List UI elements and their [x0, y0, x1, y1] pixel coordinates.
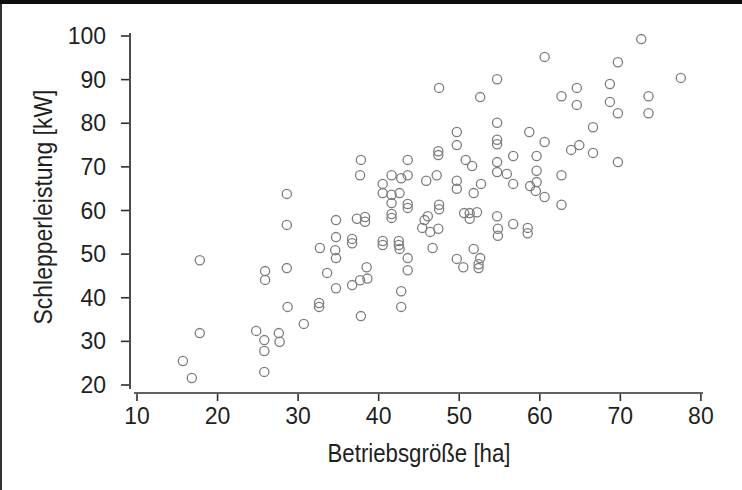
data-point — [540, 137, 549, 146]
data-point — [397, 302, 406, 311]
x-tick-label: 20 — [205, 403, 231, 429]
y-tick-label: 40 — [80, 285, 106, 311]
x-tick-label: 80 — [688, 403, 714, 429]
scan-edge-top-artifact — [0, 0, 742, 4]
data-point — [403, 155, 412, 164]
data-point — [356, 155, 365, 164]
y-tick-label: 60 — [80, 198, 106, 224]
axes: 10203040506070802030405060708090100 — [68, 23, 714, 429]
x-tick-label: 40 — [366, 403, 392, 429]
data-point — [315, 243, 324, 252]
data-point — [469, 189, 478, 198]
data-point — [532, 151, 541, 160]
y-tick-label: 90 — [80, 67, 106, 93]
data-point — [509, 179, 518, 188]
data-point — [613, 158, 622, 167]
data-point — [282, 264, 291, 273]
y-tick-label: 70 — [80, 154, 106, 180]
scanned-figure-page: 10203040506070802030405060708090100 Betr… — [0, 0, 742, 490]
data-point — [435, 83, 444, 92]
data-point — [557, 92, 566, 101]
data-point — [493, 231, 502, 240]
data-point — [323, 268, 332, 277]
data-point — [493, 118, 502, 127]
data-point — [575, 141, 584, 150]
data-point — [299, 319, 308, 328]
data-point — [605, 97, 614, 106]
x-axis-title: Betriebsgröße [ha] — [328, 439, 511, 467]
data-point — [356, 171, 365, 180]
data-point — [261, 267, 270, 276]
data-point — [557, 171, 566, 180]
data-point — [331, 233, 340, 242]
y-tick-label: 30 — [80, 328, 106, 354]
data-point — [493, 212, 502, 221]
data-point — [195, 329, 204, 338]
data-point — [275, 337, 284, 346]
data-point — [378, 189, 387, 198]
data-point — [493, 158, 502, 167]
data-point — [476, 179, 485, 188]
data-point — [613, 109, 622, 118]
data-points — [178, 35, 685, 383]
data-point — [459, 263, 468, 272]
data-point — [572, 83, 581, 92]
data-point — [644, 92, 653, 101]
y-tick-label: 50 — [80, 241, 106, 267]
data-point — [468, 161, 477, 170]
data-point — [452, 141, 461, 150]
data-point — [260, 367, 269, 376]
y-tick-label: 80 — [80, 110, 106, 136]
data-point — [613, 58, 622, 67]
data-point — [274, 329, 283, 338]
data-point — [397, 287, 406, 296]
y-axis-title: Schlepperleistung [kW] — [29, 90, 57, 325]
data-point — [493, 75, 502, 84]
data-point — [465, 214, 474, 223]
scan-edge-left-artifact — [0, 0, 2, 490]
data-point — [523, 229, 532, 238]
data-point — [282, 220, 291, 229]
data-point — [428, 243, 437, 252]
x-tick-label: 50 — [446, 403, 472, 429]
data-point — [572, 100, 581, 109]
data-point — [588, 148, 597, 157]
data-point — [532, 166, 541, 175]
data-point — [260, 336, 269, 345]
data-point — [403, 254, 412, 263]
data-point — [523, 223, 532, 232]
data-point — [283, 302, 292, 311]
data-point — [676, 73, 685, 82]
x-tick-label: 10 — [124, 403, 150, 429]
data-point — [637, 35, 646, 44]
x-tick-label: 60 — [527, 403, 553, 429]
data-point — [356, 312, 365, 321]
data-point — [261, 275, 270, 284]
data-point — [187, 373, 196, 382]
data-point — [260, 346, 269, 355]
data-point — [432, 171, 441, 180]
data-point — [195, 256, 204, 265]
data-point — [605, 79, 614, 88]
data-point — [557, 200, 566, 209]
data-point — [452, 127, 461, 136]
data-point — [178, 356, 187, 365]
data-point — [588, 123, 597, 132]
data-point — [252, 326, 261, 335]
data-point — [540, 52, 549, 61]
data-point — [531, 186, 540, 195]
data-point — [452, 254, 461, 263]
data-point — [434, 224, 443, 233]
data-point — [387, 171, 396, 180]
data-point — [362, 263, 371, 272]
data-point — [282, 189, 291, 198]
data-point — [644, 109, 653, 118]
data-point — [403, 266, 412, 275]
data-point — [331, 216, 340, 225]
data-point — [509, 151, 518, 160]
x-tick-label: 70 — [608, 403, 634, 429]
data-point — [469, 244, 478, 253]
data-point — [493, 168, 502, 177]
y-tick-label: 100 — [68, 23, 106, 49]
data-point — [525, 127, 534, 136]
